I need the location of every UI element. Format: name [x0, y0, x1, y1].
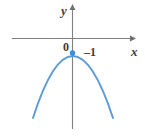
x-axis-label: x: [131, 45, 138, 58]
vertex-value-label: –1: [84, 46, 96, 58]
parabola-figure: y x 0 –1: [0, 0, 145, 136]
y-axis-arrowhead: [70, 4, 76, 10]
origin-label: 0: [63, 41, 69, 53]
graph-canvas: [0, 0, 145, 136]
y-axis-label: y: [61, 4, 67, 17]
vertex-point-marker: [70, 50, 75, 55]
x-axis-arrowhead: [130, 36, 136, 42]
